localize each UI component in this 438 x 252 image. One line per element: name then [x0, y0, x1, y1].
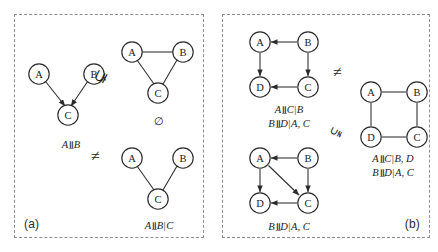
- operator-b-top-glyph: ≠: [333, 63, 342, 80]
- caption-b-ug-l2-rhs: D: [384, 167, 392, 178]
- edge-b-c: [163, 60, 177, 84]
- graph-a-ug-chain-svg: A B C: [115, 143, 205, 215]
- node-a: A: [122, 148, 142, 168]
- caption-a-ug: A⫫B|C: [113, 219, 205, 232]
- node-b-label: B: [304, 37, 311, 48]
- caption-b-dag-l2-rhs: D: [280, 118, 288, 129]
- node-b: B: [407, 82, 427, 102]
- graph-a-dag-collider: A B C: [23, 59, 119, 131]
- node-c-label: C: [64, 110, 71, 121]
- figure-root: A B C A⫫B ⊊: [0, 0, 438, 252]
- node-d-label: D: [256, 198, 264, 209]
- node-d: D: [250, 193, 270, 213]
- graph-b-dag-moral-svg: A B D C: [239, 143, 339, 221]
- graph-a-dag-collider-svg: A B C: [23, 59, 119, 131]
- caption-b-ug-line2: B⫫D|A, C: [345, 166, 438, 179]
- operator-a-bottom: ≠: [91, 148, 100, 164]
- node-a-label: A: [367, 87, 375, 98]
- node-a: A: [122, 42, 142, 62]
- node-b-label: B: [413, 87, 420, 98]
- caption-a-ug-given: C: [166, 220, 173, 231]
- caption-a-triangle-text: ∅: [154, 115, 164, 127]
- caption-b-moral-l1-rhs: D: [280, 221, 288, 232]
- graph-a-ug-triangle-svg: A B C: [115, 37, 205, 111]
- edge-b-c: [163, 166, 177, 190]
- node-a-label: A: [128, 153, 136, 164]
- caption-b-ug-line1: A⫫C|B, D: [345, 152, 438, 165]
- graph-a-ug-triangle: A B C: [115, 37, 205, 111]
- graph-b-dag-moral: A B D C: [239, 143, 339, 221]
- node-a-label: A: [256, 37, 264, 48]
- panel-b: A B D C A⫫C|B B⫫D|A, C: [222, 14, 430, 238]
- caption-b-ug-l2-given: A, C: [395, 167, 414, 178]
- node-c-label: C: [154, 194, 161, 205]
- panel-a: A B C A⫫B ⊊: [14, 14, 204, 238]
- caption-b-dag-l1-rhs: C: [287, 104, 294, 115]
- edge-b-to-c: [71, 80, 89, 107]
- node-a-label: A: [128, 47, 136, 58]
- node-b-label: B: [304, 153, 311, 164]
- caption-b-dag-l2-given: A, C: [291, 118, 310, 129]
- operator-a-bottom-glyph: ≠: [91, 147, 100, 164]
- caption-b-ug-l1-given: B, D: [394, 153, 413, 164]
- node-a: A: [29, 64, 49, 84]
- node-c-label: C: [154, 88, 161, 99]
- caption-b-moral-l1-given: A, C: [291, 221, 310, 232]
- node-b: B: [298, 32, 318, 52]
- node-b: B: [173, 42, 193, 62]
- caption-a-triangle: ∅: [115, 115, 203, 128]
- panel-b-label: (b): [405, 217, 420, 231]
- node-c: C: [148, 189, 168, 209]
- node-d-label: D: [367, 132, 375, 143]
- node-a-label: A: [256, 153, 264, 164]
- caption-b-dag-line1: A⫫C|B: [233, 103, 345, 116]
- node-b-label: B: [179, 153, 186, 164]
- node-b-label: B: [179, 47, 186, 58]
- graph-b-dag-square: A B D C: [239, 27, 339, 105]
- caption-a-dag: A⫫B: [23, 138, 119, 151]
- node-d: D: [250, 77, 270, 97]
- graph-b-ug-square-svg: A B D C: [353, 77, 433, 155]
- node-d-label: D: [256, 82, 264, 93]
- caption-b-dag-l1-given: B: [297, 104, 303, 115]
- caption-a-dag-rhs: B: [74, 139, 80, 150]
- node-a-label: A: [35, 69, 43, 80]
- node-c: C: [298, 77, 318, 97]
- edge-a-c: [137, 60, 154, 84]
- node-c: C: [58, 105, 78, 125]
- node-c: C: [148, 83, 168, 103]
- node-b: B: [173, 148, 193, 168]
- node-c-label: C: [304, 82, 311, 93]
- node-b: B: [298, 148, 318, 168]
- node-c: C: [407, 127, 427, 147]
- edge-a-to-c: [269, 166, 300, 196]
- graph-b-ug-square: A B D C: [353, 77, 433, 155]
- caption-b-moral-line1: B⫫D|A, C: [233, 220, 345, 233]
- graph-a-ug-chain: A B C: [115, 143, 205, 215]
- node-a: A: [250, 148, 270, 168]
- panel-a-label: (a): [24, 217, 39, 231]
- node-c-label: C: [413, 132, 420, 143]
- graph-b-dag-square-svg: A B D C: [239, 27, 339, 105]
- node-a: A: [361, 82, 381, 102]
- node-c: C: [298, 193, 318, 213]
- node-d: D: [361, 127, 381, 147]
- node-a: A: [250, 32, 270, 52]
- edge-a-to-c: [44, 80, 65, 107]
- node-c-label: C: [304, 198, 311, 209]
- edge-a-c: [137, 166, 154, 190]
- operator-b-top: ≠: [333, 64, 342, 80]
